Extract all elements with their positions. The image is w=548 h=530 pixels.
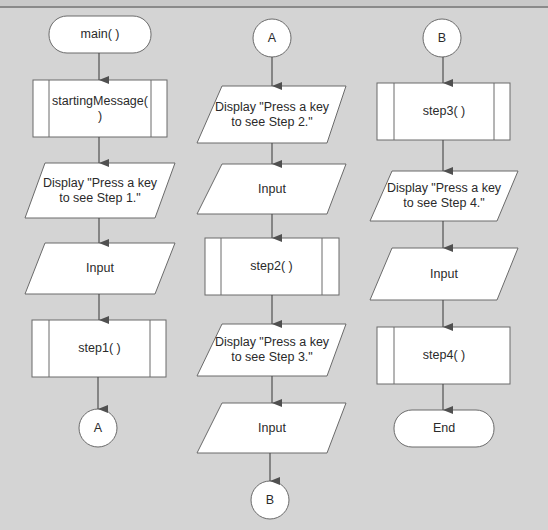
label-display-step3: Display "Press a key to see Step 3." xyxy=(210,324,334,376)
label-step2: step2( ) xyxy=(221,238,322,295)
label-display-step4: Display "Press a key to see Step 4." xyxy=(381,171,507,221)
label-step1: step1( ) xyxy=(49,320,150,377)
label-connector-a-out: A xyxy=(79,409,117,447)
label-starting-message: startingMessage( ) xyxy=(49,80,151,137)
label-display-step2: Display "Press a key to see Step 2." xyxy=(210,86,334,143)
label-display-step1: Display "Press a key to see Step 1." xyxy=(38,163,162,218)
label-input-4: Input xyxy=(381,248,507,300)
label-input-2: Input xyxy=(210,164,334,214)
label-connector-a-in: A xyxy=(253,19,291,57)
label-step4: step4( ) xyxy=(394,327,494,384)
label-connector-b-out: B xyxy=(251,481,289,519)
label-connector-b-in: B xyxy=(423,19,461,57)
label-input-1: Input xyxy=(38,243,162,294)
label-input-3: Input xyxy=(210,403,334,453)
label-main: main( ) xyxy=(49,16,151,53)
label-end: End xyxy=(394,410,494,447)
label-step3: step3( ) xyxy=(394,83,494,140)
